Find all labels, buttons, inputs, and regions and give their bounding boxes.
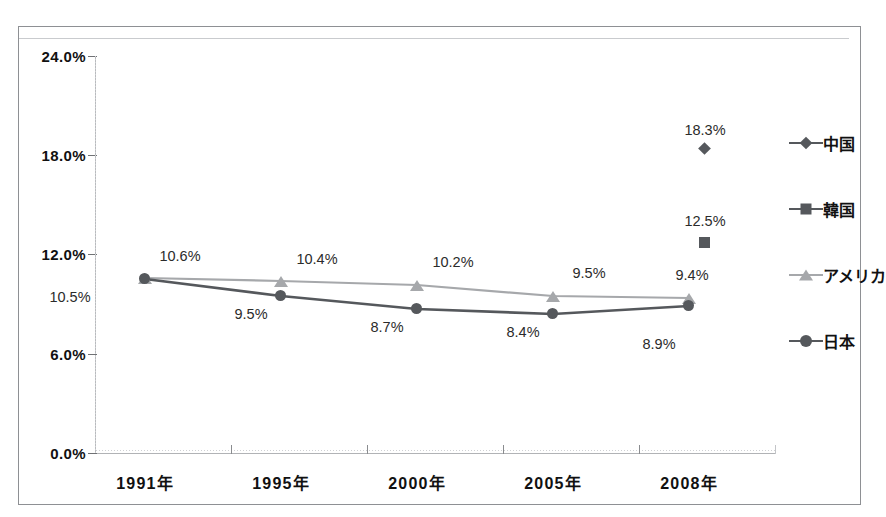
legend-label-japan: 日本 <box>823 329 855 353</box>
x-tick-2005 <box>639 445 640 454</box>
y-tick-0 <box>88 453 97 454</box>
x-axis-label-2008: 2008年 <box>624 470 754 494</box>
x-tick-1991 <box>231 445 232 454</box>
y-axis-dotted-guide <box>95 56 96 453</box>
y-axis-label-12-text: 12.0% <box>41 246 86 263</box>
x-axis-label-2005: 2005年 <box>488 470 618 494</box>
value-label-america-1991: 10.6% <box>145 248 215 264</box>
x-axis-label-1995: 1995年 <box>216 470 346 494</box>
triangle-marker-icon <box>274 276 288 287</box>
y-axis-label-24: 24.0% <box>0 48 86 66</box>
circle-marker-icon <box>139 273 150 284</box>
y-axis-label-18-text: 18.0% <box>41 147 86 164</box>
legend-item-america[interactable]: アメリカ <box>789 264 886 286</box>
legend-label-america: アメリカ <box>823 263 886 287</box>
value-label-japan-1995: 9.5% <box>216 306 286 322</box>
x-axis-end-cap <box>775 445 776 454</box>
legend-item-korea[interactable]: 韓国 <box>789 198 855 220</box>
value-label-japan-2008: 8.9% <box>624 336 694 352</box>
value-label-japan-2000: 8.7% <box>352 319 422 335</box>
x-tick-2000 <box>503 445 504 454</box>
circle-marker-icon <box>789 333 823 349</box>
triangle-marker-icon <box>410 280 424 291</box>
legend-item-china[interactable]: 中国 <box>789 132 855 154</box>
y-axis-label-12: 12.0% <box>0 246 86 264</box>
x-axis-line <box>95 453 775 454</box>
value-label-america-2008: 9.4% <box>657 267 727 283</box>
square-marker-icon <box>699 237 710 248</box>
x-axis-dotted-guide <box>96 450 775 451</box>
x-tick-1995 <box>367 445 368 454</box>
legend-label-korea: 韓国 <box>823 197 855 221</box>
circle-marker-icon <box>275 290 286 301</box>
value-label-japan-1991: 10.5% <box>35 289 105 305</box>
x-axis-label-2000: 2000年 <box>352 470 482 494</box>
triangle-marker-icon <box>546 291 560 302</box>
value-label-japan-2005: 8.4% <box>488 324 558 340</box>
diamond-marker-icon <box>789 135 823 151</box>
y-axis-label-24-text: 24.0% <box>41 48 86 65</box>
circle-marker-icon <box>411 303 422 314</box>
frame-top-rule <box>19 38 849 39</box>
y-axis-label-0: 0.0% <box>0 445 86 463</box>
triangle-marker-icon <box>789 267 823 283</box>
legend-label-china: 中国 <box>823 131 855 155</box>
value-label-america-2005: 9.5% <box>554 265 624 281</box>
y-axis-label-6-text: 6.0% <box>50 346 86 363</box>
value-label-korea-2008: 12.5% <box>670 213 740 229</box>
y-axis-label-6: 6.0% <box>0 346 86 364</box>
value-label-china-2008: 18.3% <box>670 122 740 138</box>
square-marker-icon <box>789 201 823 217</box>
value-label-america-1995: 10.4% <box>282 251 352 267</box>
legend-item-japan[interactable]: 日本 <box>789 330 855 352</box>
value-label-america-2000: 10.2% <box>418 254 488 270</box>
circle-marker-icon <box>547 308 558 319</box>
y-axis-label-0-text: 0.0% <box>50 445 86 462</box>
y-axis-label-18: 18.0% <box>0 147 86 165</box>
x-axis-label-1991: 1991年 <box>80 470 210 494</box>
circle-marker-icon <box>683 300 694 311</box>
